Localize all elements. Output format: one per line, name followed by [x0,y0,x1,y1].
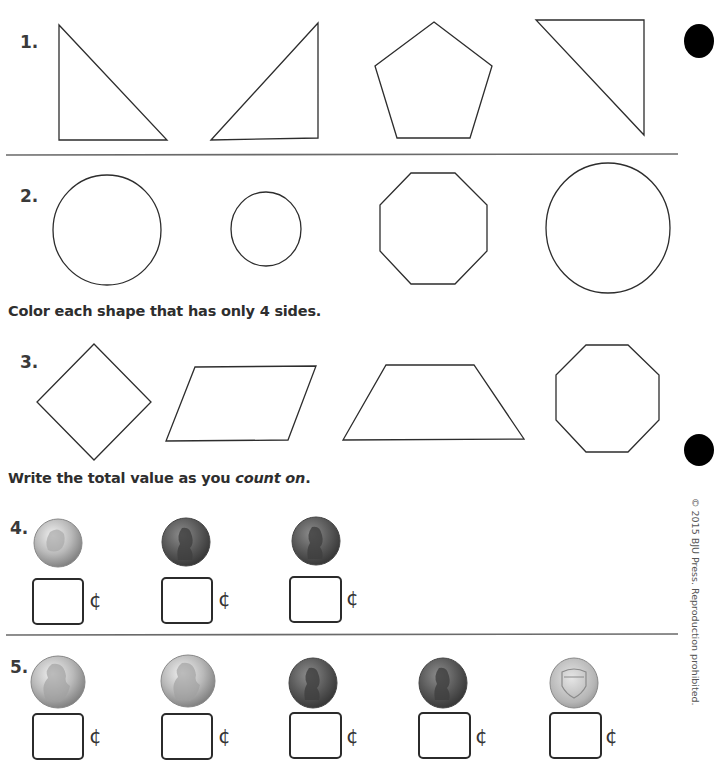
answer-box-5a[interactable] [32,713,84,760]
problem-number-5: 5. [10,657,28,677]
cent-symbol: ¢ [89,724,102,748]
cent-symbol: ¢ [475,724,488,748]
coin-5c-penny [289,658,337,708]
shape-2a-circle[interactable] [53,175,161,285]
coin-4a-dime [34,519,82,567]
answer-box-4a[interactable] [32,578,84,625]
coin-5a-nickel [31,656,85,708]
shape-2b-circle[interactable] [231,192,301,266]
divider-2 [6,634,678,635]
coin-5b-nickel [161,655,215,707]
instruction-count-on-emphasis: count on [235,470,305,486]
shape-2d-circle[interactable] [546,163,670,293]
shape-3a-diamond[interactable] [37,344,151,460]
cent-symbol: ¢ [89,588,102,612]
coin-4b-penny [162,518,210,566]
problem-number-1: 1. [20,32,38,52]
cent-symbol: ¢ [346,586,359,610]
problem-number-2: 2. [20,186,38,206]
instruction-count-on-suffix: . [305,470,310,486]
instruction-count-on-prefix: Write the total value as you [8,470,235,486]
answer-box-5b[interactable] [161,713,213,760]
shape-3c-trapezoid[interactable] [343,365,524,440]
coin-5d-penny [419,658,467,708]
shape-1c-pentagon[interactable] [375,22,492,138]
answer-box-5e[interactable] [549,712,602,759]
shape-2c-octagon[interactable] [380,173,487,284]
cent-symbol: ¢ [605,724,618,748]
shape-1b-right-triangle[interactable] [211,23,318,140]
instruction-count-on: Write the total value as you count on. [8,470,311,486]
shape-3d-octagon[interactable] [556,345,659,452]
divider-1 [6,154,678,155]
coin-5e-penny-shield [550,658,598,708]
copyright-notice: © 2015 BJU Press. Reproduction prohibite… [690,498,701,706]
shape-3b-parallelogram[interactable] [166,366,316,441]
problem-number-3: 3. [20,352,38,372]
instruction-color-four-sides: Color each shape that has only 4 sides. [8,303,321,319]
answer-box-5c[interactable] [289,712,342,759]
cent-symbol: ¢ [218,587,231,611]
answer-box-5d[interactable] [418,712,471,759]
problem-number-4: 4. [10,518,28,538]
answer-box-4c[interactable] [289,576,342,623]
cent-symbol: ¢ [218,724,231,748]
shape-1a-right-triangle[interactable] [59,25,167,140]
answer-box-4b[interactable] [161,577,213,624]
coin-4c-penny [292,517,340,565]
shape-1d-right-triangle[interactable] [536,20,644,135]
cent-symbol: ¢ [346,724,359,748]
